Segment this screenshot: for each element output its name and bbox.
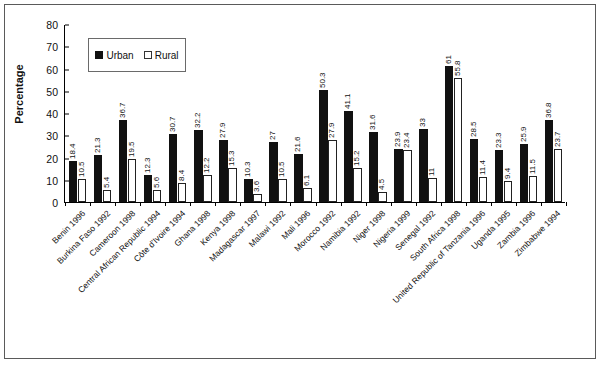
bar-rural bbox=[78, 179, 87, 202]
bar-urban bbox=[369, 132, 378, 202]
bar-rural bbox=[228, 168, 237, 202]
legend-label-urban: Urban bbox=[106, 50, 133, 61]
bar-group: 23.923.4 bbox=[394, 25, 412, 202]
bar-rural bbox=[128, 159, 137, 202]
bar-rural bbox=[153, 190, 162, 202]
bar-value-label: 6.1 bbox=[303, 175, 311, 186]
bar-value-label: 15.2 bbox=[353, 151, 361, 167]
bar-group: 25.911.5 bbox=[520, 25, 538, 202]
bar-value-label: 23.7 bbox=[554, 132, 562, 148]
bar-rural bbox=[203, 175, 212, 202]
bar-value-label: 31.6 bbox=[369, 114, 377, 130]
chart-figure: Percentage 01020304050607080 18.410.521.… bbox=[0, 0, 600, 365]
x-axis-tick-mark bbox=[441, 202, 442, 206]
bar-rural bbox=[529, 176, 538, 202]
bar-value-label: 27.9 bbox=[219, 122, 227, 138]
y-axis-title: Percentage bbox=[13, 49, 25, 139]
bar-value-label: 55.8 bbox=[454, 60, 462, 76]
y-axis-tick-label: 0 bbox=[52, 197, 65, 209]
x-axis-tick-mark bbox=[516, 202, 517, 206]
y-axis-tick-label: 60 bbox=[46, 64, 65, 76]
x-axis-tick-mark bbox=[566, 202, 567, 206]
bar-group: 28.511.4 bbox=[470, 25, 488, 202]
x-axis-tick-mark bbox=[190, 202, 191, 206]
bar-group: 36.823.7 bbox=[545, 25, 563, 202]
x-axis-tick-mark bbox=[466, 202, 467, 206]
bar-value-label: 10.5 bbox=[278, 161, 286, 177]
bar-rural bbox=[403, 150, 412, 202]
x-axis-tick-mark bbox=[391, 202, 392, 206]
bar-value-label: 19.5 bbox=[128, 141, 136, 157]
bar-urban bbox=[319, 90, 328, 202]
bar-group: 41.115.2 bbox=[344, 25, 362, 202]
bar-value-label: 61 bbox=[445, 55, 453, 64]
y-axis-tick-label: 30 bbox=[46, 130, 65, 142]
bar-value-label: 4.5 bbox=[378, 179, 386, 190]
bar-value-label: 23.3 bbox=[495, 133, 503, 149]
bar-value-label: 32.2 bbox=[194, 113, 202, 129]
bar-value-label: 9.4 bbox=[504, 168, 512, 179]
bar-urban bbox=[520, 144, 529, 202]
bar-value-label: 12.3 bbox=[144, 157, 152, 173]
bar-group: 27.915.3 bbox=[219, 25, 237, 202]
x-axis-tick-mark bbox=[491, 202, 492, 206]
bar-value-label: 36.7 bbox=[119, 103, 127, 119]
legend-entry-urban: Urban bbox=[95, 50, 133, 61]
bar-value-label: 33 bbox=[419, 118, 427, 127]
x-axis-tick-mark bbox=[165, 202, 166, 206]
bar-group: 50.327.9 bbox=[319, 25, 337, 202]
bar-value-label: 21.3 bbox=[94, 137, 102, 153]
bar-urban bbox=[445, 66, 454, 202]
bar-value-label: 36.8 bbox=[545, 103, 553, 119]
bar-urban bbox=[169, 134, 178, 202]
x-axis-tick-mark bbox=[366, 202, 367, 206]
x-axis-tick-mark bbox=[140, 202, 141, 206]
bar-rural bbox=[428, 178, 437, 202]
chart-legend: Urban Rural bbox=[88, 38, 186, 72]
bar-value-label: 12.2 bbox=[203, 157, 211, 173]
legend-swatch-rural-icon bbox=[144, 51, 152, 59]
bar-value-label: 41.1 bbox=[344, 93, 352, 109]
bar-value-label: 21.6 bbox=[294, 136, 302, 152]
bar-value-label: 18.4 bbox=[69, 143, 77, 159]
bar-rural bbox=[278, 179, 287, 202]
x-axis-tick-mark bbox=[65, 202, 66, 206]
bar-urban bbox=[545, 120, 554, 202]
y-axis-tick-label: 40 bbox=[46, 108, 65, 120]
bar-value-label: 5.6 bbox=[153, 176, 161, 187]
y-axis-tick-label: 10 bbox=[46, 175, 65, 187]
bar-urban bbox=[495, 150, 504, 202]
bar-group: 2710.5 bbox=[269, 25, 287, 202]
x-axis-tick-mark bbox=[290, 202, 291, 206]
bar-group: 31.64.5 bbox=[369, 25, 387, 202]
bar-value-label: 8.4 bbox=[178, 170, 186, 181]
bar-rural bbox=[454, 78, 463, 202]
legend-entry-rural: Rural bbox=[144, 50, 179, 61]
bar-group: 3311 bbox=[419, 25, 437, 202]
bar-value-label: 30.7 bbox=[169, 116, 177, 132]
x-axis-tick-mark bbox=[265, 202, 266, 206]
bar-rural bbox=[328, 140, 337, 202]
bar-value-label: 50.3 bbox=[319, 73, 327, 89]
bar-urban bbox=[394, 149, 403, 202]
bar-value-label: 3.6 bbox=[253, 181, 261, 192]
bar-rural bbox=[554, 149, 563, 202]
bar-group: 10.33.6 bbox=[244, 25, 262, 202]
y-axis-tick-label: 50 bbox=[46, 86, 65, 98]
bar-value-label: 11.5 bbox=[529, 159, 537, 174]
bar-value-label: 27.9 bbox=[328, 122, 336, 138]
x-axis-tick-mark bbox=[316, 202, 317, 206]
bar-rural bbox=[353, 168, 362, 202]
x-axis-tick-mark bbox=[416, 202, 417, 206]
bar-group: 21.66.1 bbox=[294, 25, 312, 202]
bar-value-label: 11.4 bbox=[479, 160, 487, 175]
y-axis-tick-label: 70 bbox=[46, 41, 65, 53]
bar-group: 23.39.4 bbox=[495, 25, 513, 202]
bar-value-label: 25.9 bbox=[520, 127, 528, 143]
bar-group: 18.410.5 bbox=[69, 25, 87, 202]
bar-rural bbox=[103, 190, 112, 202]
bar-value-label: 23.4 bbox=[403, 132, 411, 148]
bar-urban bbox=[419, 129, 428, 202]
bar-rural bbox=[178, 183, 187, 202]
legend-label-rural: Rural bbox=[155, 50, 179, 61]
